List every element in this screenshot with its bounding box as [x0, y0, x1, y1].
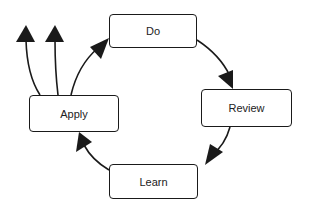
- node-learn: Learn: [109, 164, 198, 199]
- node-do: Do: [109, 14, 197, 48]
- arrowhead-out-1-icon: [16, 25, 35, 42]
- node-apply-label: Apply: [60, 108, 88, 120]
- arrow-apply-out-2: [55, 40, 58, 95]
- node-apply: Apply: [29, 95, 119, 132]
- arrow-apply-to-do: [71, 48, 98, 95]
- arrowhead-review-icon: [218, 70, 233, 89]
- arrowhead-out-2-icon: [45, 25, 64, 42]
- node-do-label: Do: [146, 25, 160, 37]
- arrow-do-to-review: [197, 40, 230, 76]
- arrowhead-do-icon: [90, 38, 109, 59]
- node-review: Review: [201, 89, 292, 127]
- node-review-label: Review: [228, 102, 264, 114]
- node-learn-label: Learn: [139, 176, 167, 188]
- arrow-learn-to-apply: [84, 145, 109, 170]
- arrowhead-apply-icon: [76, 132, 92, 152]
- arrow-apply-out-1: [26, 40, 40, 95]
